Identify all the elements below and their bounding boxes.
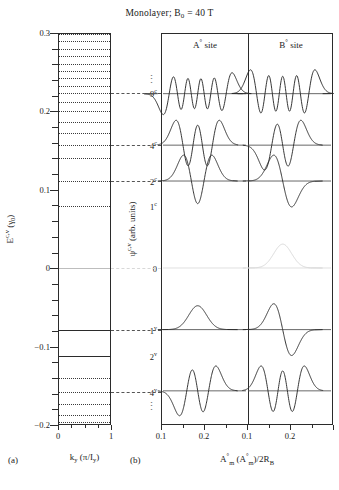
energy-level-line: [59, 404, 110, 405]
energy-level-line: [59, 330, 110, 331]
panel-b-x-tick: [183, 425, 184, 428]
caption-a: (a): [8, 455, 18, 465]
level-band-sup: v: [154, 350, 157, 356]
ylabelb-psi: ψ: [127, 251, 137, 257]
energy-level-line: [59, 268, 110, 269]
ylabel-unit-end: ): [5, 215, 15, 218]
energy-level-line: [59, 356, 110, 357]
title-tail: = 40 T: [185, 8, 214, 18]
y-tick-label: 0.2: [0, 106, 50, 116]
ylabelb-sup: c,v: [125, 243, 132, 251]
figure-root: Monolayer; B0 = 40 T Ec,v (γ0) 0.30.20.1…: [0, 0, 339, 490]
energy-level-line: [59, 93, 110, 94]
y-tick-label: 0.1: [0, 185, 50, 195]
panel-a-energy-spectrum: [58, 33, 111, 425]
panel-b-x-tick: [290, 425, 291, 430]
energy-level-line: [59, 206, 110, 207]
wavefunction-curve: [158, 306, 238, 330]
y-tick-label: −0.2: [0, 420, 50, 430]
level-connector-4c: [111, 145, 161, 146]
panel-b-x-tick: [226, 425, 227, 428]
energy-level-line: [59, 122, 110, 123]
xtitleb-a3-sub: B: [270, 459, 274, 466]
xtitle-unit-end: ): [96, 452, 99, 462]
wavefunction-curve: [158, 155, 238, 203]
panel-a-x-tick: [58, 425, 59, 430]
panel-b-x-label: 0.1: [242, 431, 253, 441]
panel-b-x-tick: [312, 425, 313, 428]
panel-b-x-tick: [161, 425, 162, 430]
y-tick-major: [50, 425, 58, 426]
panel-a-x-tick: [85, 425, 86, 428]
energy-level-line: [59, 378, 110, 379]
wavefunction-curves: [162, 34, 332, 424]
energy-level-line: [59, 158, 110, 159]
energy-level-line: [59, 422, 110, 423]
xtitleb-a2-sup: °: [246, 452, 249, 459]
panel-a-x-label: 1: [109, 431, 113, 441]
level-connector-1v: [111, 330, 161, 331]
level-band-sup: c: [154, 201, 157, 207]
energy-level-line: [59, 86, 110, 87]
energy-level-line: [59, 71, 110, 72]
y-tick-major: [50, 268, 58, 269]
panel-b-x-label: 0.2: [199, 431, 210, 441]
xtitleb-a3: )/2R: [254, 454, 270, 464]
ylabel-sup: c,v: [3, 230, 10, 238]
energy-level-line: [59, 64, 110, 65]
energy-level-line: [59, 111, 110, 112]
wavefunction-curve: [158, 120, 238, 165]
energy-level-line: [59, 145, 110, 146]
level-connector-0: [111, 268, 161, 269]
energy-level-line: [59, 181, 110, 182]
panel-a-x-tick: [98, 425, 99, 428]
panel-b-x-tick: [269, 425, 270, 428]
wavefunction-curve: [243, 244, 323, 268]
ylabel-unit: (γ: [5, 221, 15, 230]
energy-level-line: [59, 415, 110, 416]
xtitleb-a1-sup: °: [227, 452, 230, 459]
energy-level-line: [59, 56, 110, 57]
y-tick-major: [50, 190, 58, 191]
panel-a-x-tick: [111, 425, 112, 430]
ylabel-e: E: [5, 238, 15, 244]
energy-level-line: [59, 392, 110, 393]
panel-a-x-label: 0: [56, 431, 60, 441]
y-tick-major: [50, 347, 58, 348]
wavefunction-curve: [232, 70, 334, 113]
xtitleb-a2: (A: [234, 454, 246, 464]
y-tick-label: 0: [0, 263, 50, 273]
y-tick-major: [50, 111, 58, 112]
energy-level-line: [59, 102, 110, 103]
panel-b-x-label: 0.1: [156, 431, 167, 441]
figure-title: Monolayer; B0 = 40 T: [0, 8, 339, 20]
level-connector-9c: [111, 93, 161, 94]
panel-b-ylabel: ψc,v (arb. units): [125, 201, 137, 256]
panel-b-wavefunctions: A° site B° site: [161, 33, 333, 425]
xtitle-unit: (π/I: [78, 452, 93, 462]
energy-level-line: [59, 49, 110, 50]
panel-b-x-tick: [333, 425, 334, 430]
level-connector-2c: [111, 181, 161, 182]
level-connector-4v: [111, 392, 161, 393]
panel-b-ylabel-wrap: ψc,v (arb. units): [124, 33, 138, 425]
y-tick-label: −0.1: [0, 342, 50, 352]
energy-level-line: [59, 41, 110, 42]
panel-a-ylabel: Ec,v (γ0): [3, 215, 16, 244]
panel-a-x-tick: [71, 425, 72, 428]
y-tick-major: [50, 33, 58, 34]
panel-b-xtitle: A°m (A°m)/2RB: [161, 452, 333, 466]
caption-b: (b): [130, 455, 141, 465]
energy-level-line: [59, 133, 110, 134]
wavefunction-curve: [243, 366, 323, 411]
panel-b-x-tick: [204, 425, 205, 430]
panel-a-ylabel-wrap: Ec,v (γ0): [2, 33, 16, 425]
y-tick-label: 0.3: [0, 28, 50, 38]
panel-b-x-tick: [247, 425, 248, 430]
energy-level-line: [59, 34, 110, 35]
ylabel-unit-sub: 0: [9, 218, 16, 221]
energy-level-line: [59, 78, 110, 79]
panel-a-xtitle: ky (π/Iy): [58, 452, 111, 463]
title-text: Monolayer; B: [125, 8, 180, 18]
ylabelb-unit: (arb. units): [127, 201, 137, 243]
